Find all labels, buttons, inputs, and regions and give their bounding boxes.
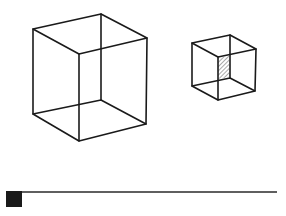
figure-canvas [0, 0, 286, 216]
small-cube-top-face [192, 35, 256, 57]
large-necker-cube [33, 14, 147, 141]
large-cube-edge [146, 38, 147, 124]
small-cube-edge [255, 49, 256, 91]
small-cube-bottom-face [192, 78, 255, 100]
small-cube-hatched-region [218, 56, 229, 79]
bar-block [6, 191, 22, 207]
large-cube-top-face [33, 14, 147, 54]
bottom-bar [6, 191, 277, 207]
large-cube-bottom-face [33, 100, 146, 141]
small-necker-cube [192, 35, 256, 100]
